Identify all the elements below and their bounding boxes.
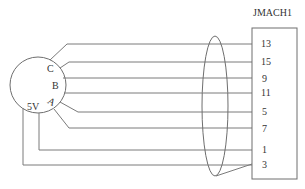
pin-label-9: 9 — [262, 73, 267, 84]
connector-box — [252, 28, 297, 179]
pin-label-15: 15 — [261, 56, 271, 67]
wire-5v-to-1 — [39, 113, 252, 150]
pin-label-3: 3 — [262, 159, 267, 170]
sensor-label-c: C — [47, 63, 54, 74]
cable-shield-ellipse — [202, 36, 228, 176]
wire-c-to-15 — [60, 62, 252, 68]
wire-a-to-5 — [60, 102, 252, 112]
wire-gnd-to-3 — [23, 108, 252, 165]
pin-label-1: 1 — [262, 144, 267, 155]
wiring-diagram — [0, 0, 305, 189]
pin-label-11: 11 — [261, 87, 271, 98]
sensor-label-b: B — [52, 80, 59, 91]
pin-label-5: 5 — [262, 106, 267, 117]
pin-label-13: 13 — [261, 38, 271, 49]
pin-label-7: 7 — [262, 123, 267, 134]
connector-title: JMACH1 — [253, 7, 292, 18]
sensor-label-5v: 5V — [27, 101, 39, 112]
